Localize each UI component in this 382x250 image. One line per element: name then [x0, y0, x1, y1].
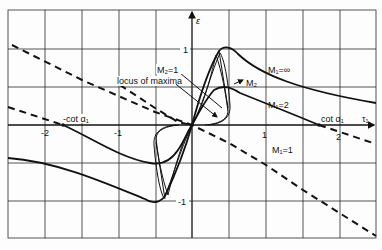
leader-m2-1 [180, 73, 222, 108]
leader-locus [172, 81, 217, 117]
label-m2-1: M₂=1 [157, 65, 178, 75]
plot-area: -2 -1 1 2 1 -1 ε τ₁ M₁=∞ M₂ M₁=2 M₂=1 lo… [0, 0, 382, 250]
tick-y-neg1: -1 [178, 197, 186, 207]
tick-y-pos1: 1 [183, 45, 188, 55]
chart: -2 -1 1 2 1 -1 ε τ₁ M₁=∞ M₂ M₁=2 M₂=1 lo… [0, 0, 382, 250]
y-axis-label: ε [196, 16, 201, 26]
label-locus-of-maxima: locus of maxima [117, 76, 182, 86]
label-m2: M₂ [246, 78, 257, 88]
curve-m1-1 [12, 45, 376, 236]
curve-m2-1-lower [156, 125, 192, 195]
label-m1-2: M₁=2 [268, 100, 289, 110]
tick-x-neg1: -1 [114, 128, 122, 138]
curve-dashed-right [319, 125, 376, 144]
tick-x-pos1: 1 [262, 130, 267, 140]
leader-m2 [234, 80, 243, 84]
curve-m2-1-upper [192, 55, 228, 125]
tick-x-neg2: -2 [41, 128, 49, 138]
label-m1-1: M₁=1 [272, 145, 293, 155]
label-m1-inf: M₁=∞ [268, 65, 290, 75]
label-neg-cot: -cot α₁ [63, 114, 89, 124]
tick-x-pos2: 2 [336, 132, 341, 142]
label-pos-cot: cot α₁ [321, 114, 344, 124]
curve-dashed-left [8, 107, 63, 125]
x-axis-label: τ₁ [362, 114, 369, 124]
